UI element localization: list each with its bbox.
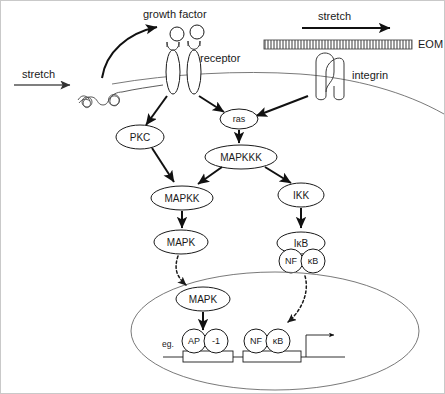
extracellular-matrix-band — [264, 40, 412, 49]
node-mapk-nuclear-label: MAPK — [189, 294, 218, 305]
arrow-receptor-to-pkc — [146, 96, 167, 125]
integrin-dimer — [316, 53, 344, 100]
node-kb-nuclear-label: κB — [273, 336, 284, 346]
arrow-mapkkk-to-mapkk — [198, 167, 222, 184]
node-mapkk-label: MAPKK — [164, 193, 199, 204]
node-mapkkk[interactable]: MAPKKK — [205, 145, 277, 169]
node-kb-cytoplasmic-label: κB — [308, 256, 319, 266]
growth-factor-receptor-dimer — [166, 41, 201, 94]
node-ap-label: AP — [188, 336, 200, 346]
receptor-label: receptor — [200, 52, 241, 64]
node-ap1-nuclear[interactable]: AP -1 — [182, 329, 228, 353]
node-pkc[interactable]: PKC — [116, 125, 164, 149]
node-ikk-label: IKK — [293, 190, 309, 201]
node-nfkb-nuclear[interactable]: NF κB — [244, 329, 290, 353]
node-mapk-cytoplasmic-label: MAPK — [167, 237, 196, 248]
node-ras[interactable]: ras — [220, 109, 258, 129]
node-mapkk[interactable]: MAPKK — [151, 186, 213, 210]
arrow-nfkb-translocation — [288, 276, 306, 322]
node-mapk-nuclear[interactable]: MAPK — [176, 287, 230, 311]
node-nf-nuclear-label: NF — [250, 336, 262, 346]
node-ras-label: ras — [233, 114, 246, 124]
node-nf-cytoplasmic-label: NF — [285, 256, 297, 266]
arrow-integrin-to-ras — [256, 96, 308, 116]
arrow-mapk-translocation — [176, 256, 186, 285]
integrin-label: integrin — [352, 69, 388, 81]
eom-label: EOM — [418, 38, 443, 50]
arrow-pkc-to-mapkk — [152, 148, 174, 182]
stretch-label-right: stretch — [318, 10, 351, 22]
node-ikk[interactable]: IKK — [278, 183, 324, 207]
arrow-stretch-to-growth-factor — [102, 27, 157, 78]
node-ap-one-label: -1 — [212, 336, 220, 346]
arrow-receptor-to-ras — [199, 96, 224, 112]
stretch-label-left: stretch — [22, 68, 55, 80]
eg-label: eg. — [162, 339, 174, 349]
growth-factor-ligands — [170, 25, 204, 41]
transcription-start-arrow — [306, 335, 334, 357]
growth-factor-label: growth factor — [143, 8, 207, 20]
node-mapk-cytoplasmic[interactable]: MAPK — [154, 230, 208, 254]
node-pkc-label: PKC — [130, 132, 151, 143]
node-ikb-label: IκB — [294, 238, 309, 249]
signalling-pathway-figure: stretch growth factor receptor stretch E… — [0, 0, 445, 394]
arrow-mapkkk-to-ikk — [265, 167, 291, 183]
stretch-sensitive-coiled-protein — [78, 85, 163, 108]
node-mapkkk-label: MAPKKK — [220, 152, 262, 163]
